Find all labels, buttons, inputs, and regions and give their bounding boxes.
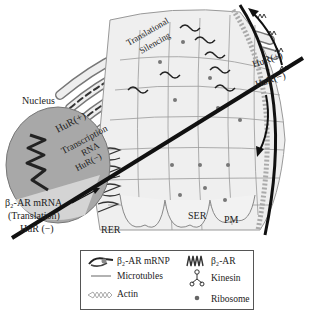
label-rer: RER <box>101 225 120 235</box>
label-mrna-line3: HuR (−) <box>20 224 54 234</box>
ribosome-icon <box>193 294 201 302</box>
label-pm: PM <box>224 215 238 225</box>
legend-label-kinesin: Kinesin <box>211 273 241 283</box>
receptor-icon <box>185 254 207 268</box>
legend-label-actin: Actin <box>117 289 138 299</box>
label-mrna-line2: (Translation) <box>8 211 60 221</box>
kinesin-icon <box>189 269 205 287</box>
legend-label-microtubules: Microtubles <box>117 271 163 281</box>
label-ser: SER <box>188 211 206 221</box>
legend-label-mrnp: β₂-AR mRNP <box>117 256 170 266</box>
legend-label-receptor: β₂-AR <box>211 256 236 266</box>
legend-box: β₂-AR mRNP β₂-AR Microtubles Kinesin Act… <box>80 250 254 310</box>
microtubule-icon <box>91 273 111 279</box>
mrnp-icon <box>87 256 115 268</box>
actin-icon <box>87 290 113 300</box>
arrow-hur-plus-head <box>248 8 259 17</box>
label-mrna-line1: β₂-AR mRNA <box>5 198 62 208</box>
legend-label-ribosome: Ribosome <box>211 294 250 304</box>
label-nucleus: Nucleus <box>22 96 55 106</box>
